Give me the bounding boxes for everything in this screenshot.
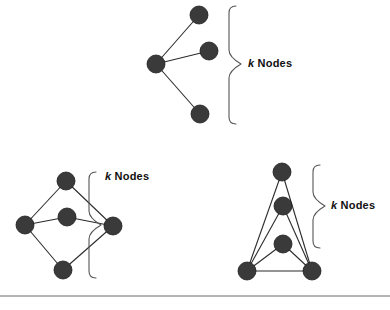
graph-edge <box>247 172 282 271</box>
graph-node <box>54 261 72 279</box>
graph-node <box>303 262 321 280</box>
graph-edge <box>156 64 200 114</box>
k-nodes-label-top: k Nodes <box>248 57 292 69</box>
panel-diamond-graph <box>16 172 122 279</box>
graph-node <box>57 172 75 190</box>
k-nodes-label-bottom-right: k Nodes <box>331 199 375 211</box>
graph-node <box>273 163 291 181</box>
graph-node <box>191 105 209 123</box>
graph-node <box>16 216 34 234</box>
node-group <box>238 163 321 280</box>
curly-brace <box>313 165 325 248</box>
curly-brace <box>89 172 101 278</box>
graph-node <box>104 217 122 235</box>
graph-edge <box>63 226 113 270</box>
curly-brace <box>229 6 241 124</box>
panel-fan-graph <box>147 6 241 124</box>
diagram-root: k Nodes k Nodes k Nodes <box>0 0 390 310</box>
graph-node <box>190 6 208 24</box>
nodes-word: Nodes <box>258 57 293 69</box>
nodes-word: Nodes <box>341 199 376 211</box>
graph-node <box>274 235 292 253</box>
graph-node <box>274 197 292 215</box>
graph-edge <box>282 172 312 271</box>
graph-node <box>200 42 218 60</box>
node-group <box>147 6 218 123</box>
node-group <box>16 172 122 279</box>
graph-edge <box>156 15 199 64</box>
edge-group <box>247 172 312 271</box>
graph-node <box>58 208 76 226</box>
nodes-word: Nodes <box>115 170 150 182</box>
graph-node <box>238 262 256 280</box>
graph-figure-canvas <box>0 0 390 310</box>
panel-stacked-fan-graph <box>238 163 325 280</box>
k-nodes-label-bottom-left: k Nodes <box>105 170 149 182</box>
graph-node <box>147 55 165 73</box>
